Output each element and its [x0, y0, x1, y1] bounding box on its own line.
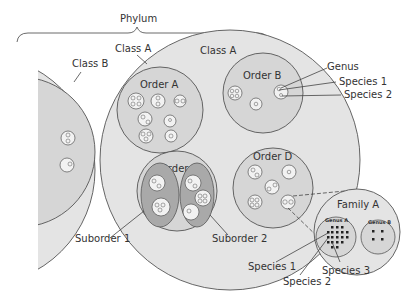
class-a-pointer [137, 55, 147, 64]
order-b-label: Order B [243, 70, 282, 81]
genus-a-label: Genus A [325, 217, 348, 223]
species-3-bottom-label: Species 3 [322, 265, 370, 276]
species-2-bottom-label: Species 2 [283, 276, 331, 287]
species-1-top-label: Species 1 [339, 76, 387, 87]
species-2-top-label: Species 2 [344, 89, 392, 100]
class-b-label: Class B [72, 58, 108, 69]
genus-b-label: Genus B [368, 219, 391, 225]
order-a-label: Order A [140, 79, 179, 90]
order-d-label: Order D [253, 151, 293, 162]
family-a-label: Family A [337, 199, 379, 210]
class-a-outer-label: Class A [115, 43, 151, 54]
suborder-1-label: Suborder 1 [75, 233, 130, 244]
suborder-1-ellipse [141, 163, 179, 227]
species-1-bottom-label: Species 1 [248, 261, 296, 272]
class-a-inner-label: Class A [200, 45, 236, 56]
genus-b-circle [361, 220, 395, 254]
taxonomy-diagram: Phylum Class B Class A Class A Order A O… [0, 0, 411, 301]
suborder-2-label: Suborder 2 [212, 233, 267, 244]
class-b-pointer [74, 72, 81, 82]
phylum-label: Phylum [120, 13, 157, 24]
genus-label: Genus [327, 61, 359, 72]
